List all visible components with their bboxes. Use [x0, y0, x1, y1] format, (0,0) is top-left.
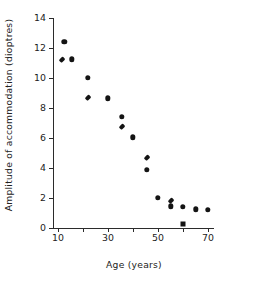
data-point-diamond	[84, 95, 91, 102]
y-tick-6: 6	[49, 138, 53, 139]
data-point-square	[181, 221, 186, 226]
x-tick-40	[133, 228, 134, 232]
y-tick-label-14: 14	[34, 13, 46, 22]
y-tick-label-12: 12	[34, 43, 46, 52]
data-point-diamond	[143, 154, 150, 161]
x-tick-label-70: 70	[202, 233, 214, 242]
data-point-circle	[168, 204, 173, 209]
x-tick-60	[183, 228, 184, 232]
y-tick-10: 10	[49, 78, 53, 79]
y-tick-label-10: 10	[34, 73, 46, 82]
data-point-diamond	[58, 56, 65, 63]
y-tick-label-8: 8	[40, 103, 46, 112]
data-point-circle	[119, 114, 124, 119]
y-axis-title: Amplitude of accommodation (dioptres)	[0, 0, 16, 230]
y-tick-label-2: 2	[40, 193, 46, 202]
y-tick-2: 2	[49, 198, 53, 199]
chart-figure: Amplitude of accommodation (dioptres) Ag…	[0, 0, 256, 285]
y-tick-label-4: 4	[40, 163, 46, 172]
data-point-circle	[193, 207, 198, 212]
plot-area: 02468101214 10305070	[53, 18, 213, 228]
x-axis-title: Age (years)	[53, 259, 215, 270]
x-tick-20	[83, 228, 84, 232]
data-point-circle	[62, 39, 67, 44]
y-tick-label-0: 0	[40, 223, 46, 232]
data-point-circle	[69, 57, 74, 62]
y-tick-0: 0	[49, 228, 53, 229]
data-point-circle	[180, 204, 185, 209]
y-axis-line	[53, 18, 54, 229]
y-tick-8: 8	[49, 108, 53, 109]
x-tick-label-30: 30	[102, 233, 114, 242]
y-tick-4: 4	[49, 168, 53, 169]
data-point-circle	[130, 135, 135, 140]
y-tick-14: 14	[49, 18, 53, 19]
x-tick-label-50: 50	[152, 233, 164, 242]
data-point-circle	[205, 207, 210, 212]
data-point-circle	[155, 195, 160, 200]
data-point-circle	[85, 75, 90, 80]
data-point-circle	[144, 167, 149, 172]
data-point-circle	[105, 96, 110, 101]
x-tick-label-10: 10	[52, 233, 64, 242]
y-tick-12: 12	[49, 48, 53, 49]
y-tick-label-6: 6	[40, 133, 46, 142]
data-point-diamond	[118, 123, 125, 130]
